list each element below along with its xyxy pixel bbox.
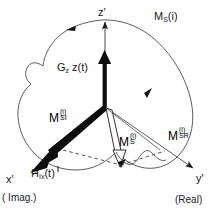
gradient-term-base: G xyxy=(57,61,66,73)
x-axis-note-label: ( Imag.) xyxy=(2,188,36,204)
gradient-term-rest: z(t) xyxy=(69,61,88,73)
z-axis-label: z′ xyxy=(98,3,106,19)
m-si-sub: SI xyxy=(60,115,83,121)
gradient-arrow xyxy=(98,50,111,107)
h-ix-rest: (t) xyxy=(44,167,54,179)
magnetization-title-arg: (i) xyxy=(168,10,178,22)
m-si-base: M xyxy=(49,112,59,124)
contour-arrowhead-right xyxy=(144,88,152,98)
dashed-x-to-ms xyxy=(63,150,121,165)
vector-diagram-figure: MS(i) z′ Gz z(t) M (i) SI M (i) S M (i) … xyxy=(0,0,223,213)
m-si-label: M (i) SI xyxy=(49,109,83,131)
y-axis-note-text: (Real) xyxy=(175,194,202,205)
m-s-base: M xyxy=(119,136,129,148)
diagram-canvas xyxy=(0,0,223,213)
h-ix-label: HIx(t) xyxy=(31,164,55,180)
gradient-term-label: Gz z(t) xyxy=(57,58,88,74)
m-sr-base: M xyxy=(168,130,178,142)
h-ix-base: H xyxy=(31,167,39,179)
y-axis-note-label: (Real) xyxy=(175,190,202,206)
x-axis-prime: ′ xyxy=(12,173,14,185)
magnetization-title-base: M xyxy=(154,10,163,22)
y-axis-prime: ′ xyxy=(202,172,204,184)
magnetization-title-label: MS(i) xyxy=(154,7,178,23)
x-axis-note-text: ( Imag.) xyxy=(2,192,36,203)
m-s-sub: S xyxy=(130,139,149,145)
y-axis-label: y′ xyxy=(196,169,204,185)
m-sr-sub: SR xyxy=(179,133,202,139)
m-s-label: M (i) S xyxy=(119,133,149,155)
z-axis-prime: ′ xyxy=(104,6,106,18)
x-axis-label: x′ xyxy=(6,170,14,186)
m-sr-label: M (i) SR xyxy=(168,127,202,149)
